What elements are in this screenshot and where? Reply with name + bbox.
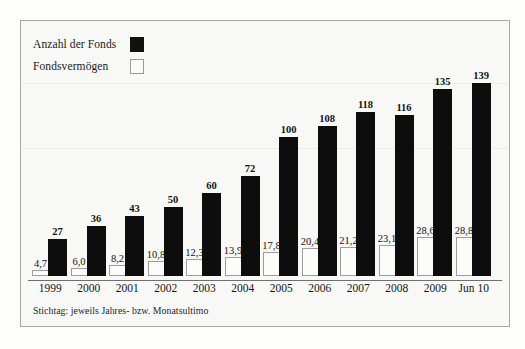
bar-anzahl-der-fonds-2002: [164, 207, 183, 276]
x-axis-label-2004: 2004: [224, 282, 263, 294]
legend-label-anzahl-der-fonds: Anzahl der Fonds: [33, 38, 130, 50]
x-axis-label-2001: 2001: [108, 282, 147, 294]
bar-fondsvermoegen-1999: [32, 270, 49, 276]
bar-anzahl-der-fonds-2007: [356, 112, 375, 276]
bar-anzahl-der-fonds-2009: [433, 89, 452, 276]
bar-anzahl-der-fonds-jun-10: [472, 83, 491, 276]
bar-group-2006: 20,41082006: [301, 18, 340, 325]
x-axis-label-2007: 2007: [339, 282, 378, 294]
bar-group-2008: 23,11162008: [378, 18, 417, 325]
bar-group-2002: 10,8502002: [147, 18, 186, 325]
chart-frame: 4,72719996,03620008,243200110,850200212,…: [20, 20, 510, 327]
bar-anzahl-der-fonds-2006: [318, 126, 337, 276]
legend-item-fondsvermoegen: Fondsvermögen: [33, 55, 144, 77]
bar-group-2007: 21,21182007: [339, 18, 378, 325]
bar-anzahl-der-fonds-2004: [241, 176, 260, 276]
x-axis-label-2000: 2000: [70, 282, 109, 294]
bar-fondsvermoegen-2008: [379, 245, 396, 276]
bar-anzahl-der-fonds-2000: [87, 226, 106, 276]
bar-fondsvermoegen-2001: [109, 265, 126, 276]
x-axis-label-2005: 2005: [262, 282, 301, 294]
value-label-anzahl-der-fonds-2003: 60: [197, 180, 226, 191]
bar-fondsvermoegen-2004: [225, 257, 242, 276]
bar-group-2009: 28,61352009: [416, 18, 455, 325]
legend-swatch-filled-square-icon: [130, 37, 144, 52]
value-label-anzahl-der-fonds-1999: 27: [43, 226, 72, 237]
x-axis-label-2006: 2006: [301, 282, 340, 294]
x-axis-label-2009: 2009: [416, 282, 455, 294]
chart-legend: Anzahl der Fonds Fondsvermögen: [33, 33, 144, 77]
value-label-anzahl-der-fonds-2001: 43: [120, 203, 149, 214]
x-axis-label-jun-10: Jun 10: [455, 282, 494, 294]
value-label-anzahl-der-fonds-2007: 118: [351, 99, 380, 110]
value-label-anzahl-der-fonds-2002: 50: [159, 194, 188, 205]
bar-fondsvermoegen-2000: [71, 268, 88, 276]
legend-item-anzahl-der-fonds: Anzahl der Fonds: [33, 33, 144, 55]
bar-group-jun-10: 28,8139Jun 10: [455, 18, 494, 325]
value-label-anzahl-der-fonds-2005: 100: [274, 124, 303, 135]
bar-anzahl-der-fonds-2008: [395, 115, 414, 276]
bar-group-2004: 13,9722004: [224, 18, 263, 325]
bar-fondsvermoegen-2005: [263, 252, 280, 276]
bar-group-2005: 17,81002005: [262, 18, 301, 325]
bar-fondsvermoegen-2007: [340, 247, 357, 276]
bar-fondsvermoegen-2003: [186, 259, 203, 276]
x-axis-label-2003: 2003: [185, 282, 224, 294]
value-label-anzahl-der-fonds-jun-10: 139: [467, 70, 496, 81]
value-label-anzahl-der-fonds-2006: 108: [313, 113, 342, 124]
x-axis-label-2008: 2008: [378, 282, 417, 294]
bar-fondsvermoegen-2009: [417, 237, 434, 276]
bar-anzahl-der-fonds-2005: [279, 137, 298, 276]
value-label-anzahl-der-fonds-2000: 36: [82, 213, 111, 224]
x-axis-label-1999: 1999: [31, 282, 70, 294]
chart-footnote: Stichtag: jeweils Jahres- bzw. Monatsult…: [33, 305, 208, 316]
bar-fondsvermoegen-jun-10: [456, 237, 473, 276]
bar-fondsvermoegen-2006: [302, 248, 319, 276]
value-label-anzahl-der-fonds-2008: 116: [390, 102, 419, 113]
legend-label-fondsvermoegen: Fondsvermögen: [33, 60, 130, 72]
bar-group-2003: 12,3602003: [185, 18, 224, 325]
bar-anzahl-der-fonds-1999: [48, 239, 67, 276]
chart-canvas: 4,72719996,03620008,243200110,850200212,…: [0, 0, 525, 349]
bar-anzahl-der-fonds-2001: [125, 216, 144, 276]
value-label-anzahl-der-fonds-2009: 135: [428, 76, 457, 87]
legend-swatch-hollow-square-icon: [130, 59, 144, 74]
bar-anzahl-der-fonds-2003: [202, 193, 221, 276]
bar-fondsvermoegen-2002: [148, 261, 165, 276]
x-axis-label-2002: 2002: [147, 282, 186, 294]
value-label-anzahl-der-fonds-2004: 72: [236, 163, 265, 174]
